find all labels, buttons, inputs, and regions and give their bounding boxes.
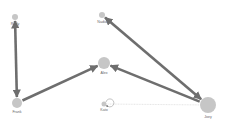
node-label: Rudy bbox=[11, 22, 20, 26]
node-frank[interactable]: Frank bbox=[12, 98, 22, 114]
edge-kato-self-loop[interactable] bbox=[106, 99, 114, 107]
node-label: Frank bbox=[12, 110, 21, 114]
edge-rudy-frank[interactable] bbox=[15, 21, 17, 97]
node-alex[interactable]: Alex bbox=[98, 57, 110, 75]
node-kato[interactable]: Kato bbox=[100, 102, 107, 113]
node-circle[interactable] bbox=[12, 14, 18, 20]
edge-frank-alex[interactable] bbox=[22, 66, 97, 101]
node-circle[interactable] bbox=[98, 57, 110, 69]
node-joey[interactable]: Joey bbox=[200, 97, 216, 119]
edge-joey-alex[interactable] bbox=[110, 66, 199, 102]
node-rudy[interactable]: Rudy bbox=[11, 14, 20, 26]
network-graph: RudyNadiaAlexFrankKatoJoey bbox=[0, 0, 230, 124]
node-label: Alex bbox=[101, 71, 108, 75]
node-circle[interactable] bbox=[12, 98, 22, 108]
node-circle[interactable] bbox=[99, 12, 105, 18]
node-circle[interactable] bbox=[102, 102, 107, 107]
node-label: Kato bbox=[100, 108, 107, 112]
edge-joey-nadia[interactable] bbox=[105, 18, 201, 100]
edge-joey-kato[interactable] bbox=[107, 104, 199, 105]
node-label: Joey bbox=[204, 115, 212, 119]
node-circle[interactable] bbox=[200, 97, 216, 113]
nodes-layer: RudyNadiaAlexFrankKatoJoey bbox=[11, 12, 216, 119]
node-label: Nadia bbox=[97, 20, 106, 24]
